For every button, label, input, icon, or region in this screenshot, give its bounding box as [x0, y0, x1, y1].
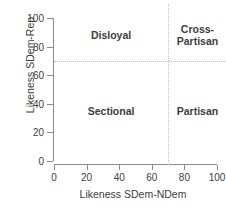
x-axis-label: Likeness SDem-NDem	[40, 188, 226, 200]
x-tick-mark	[54, 165, 55, 170]
y-axis-label: Likeness SDem-Rep	[24, 0, 36, 155]
x-tick-mark	[87, 165, 88, 170]
quadrant-label-top-right: Cross- Partisan	[177, 23, 218, 47]
x-tick-mark	[119, 165, 120, 170]
x-tick-label: 100	[197, 172, 226, 183]
y-tick-mark	[47, 18, 53, 19]
quadrant-label-bottom-right: Partisan	[177, 105, 218, 117]
y-tick-mark	[47, 47, 53, 48]
horizontal-threshold-line	[54, 61, 226, 62]
x-axis-spine	[54, 164, 217, 165]
y-tick-mark	[47, 161, 53, 162]
y-tick-mark	[47, 75, 53, 76]
y-tick-label: 0	[4, 155, 44, 166]
x-tick-mark	[184, 165, 185, 170]
y-tick-mark	[47, 132, 53, 133]
quadrant-label-top-left: Disloyal	[91, 29, 131, 41]
y-tick-mark	[47, 104, 53, 105]
x-tick-mark	[217, 165, 218, 170]
x-tick-mark	[152, 165, 153, 170]
y-axis-spine	[53, 18, 54, 161]
vertical-threshold-line	[168, 4, 169, 165]
quadrant-chart: 020406080100 020406080100 DisloyalCross-…	[0, 0, 226, 208]
quadrant-label-bottom-left: Sectional	[88, 105, 135, 117]
